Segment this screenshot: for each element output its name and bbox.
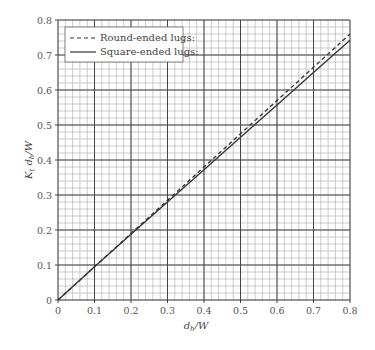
x-tick-label: 0.5 — [233, 305, 248, 316]
y-tick-label: 0.7 — [37, 50, 52, 61]
x-tick-label: 0.8 — [342, 305, 357, 316]
y-tick-label: 0.3 — [37, 190, 52, 201]
y-axis-label: Kt dh/W — [23, 140, 36, 180]
x-axis-label: dh/W — [184, 320, 209, 333]
legend-label-round-ended: Round-ended lugs: — [100, 32, 195, 43]
y-tick-label: 0.8 — [37, 15, 52, 26]
y-tick-label: 0.2 — [37, 225, 52, 236]
x-tick-label: 0.4 — [196, 305, 211, 316]
x-tick-label: 0.3 — [160, 305, 175, 316]
y-tick-label: 0.4 — [37, 155, 52, 166]
legend: Round-ended lugs: Square-ended lugs: — [65, 27, 199, 62]
x-tick-label: 0 — [55, 305, 61, 316]
x-tick-label: 0.2 — [123, 305, 138, 316]
y-tick-label: 0.5 — [37, 120, 52, 131]
chart: 00.10.20.30.40.50.60.70.800.10.20.30.40.… — [0, 0, 375, 350]
grid — [55, 20, 350, 303]
x-tick-label: 0.1 — [87, 305, 102, 316]
y-tick-label: 0.1 — [37, 260, 52, 271]
x-tick-label: 0.7 — [306, 305, 321, 316]
y-tick-label: 0.6 — [37, 85, 52, 96]
legend-label-square-ended: Square-ended lugs: — [100, 46, 199, 57]
x-tick-label: 0.6 — [269, 305, 284, 316]
y-tick-label: 0 — [46, 295, 52, 306]
